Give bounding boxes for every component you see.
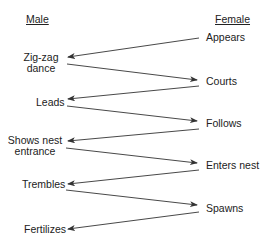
female-action-spawns: Spawns [206,203,243,214]
female-header: Female [215,14,250,25]
arrow-follows-to-shows-nest [68,129,199,141]
male-action-label-line2: entrance [6,146,64,157]
male-action-fertilizes: Fertilizes [24,224,66,235]
male-action-shows-nest: Shows nest entrance [6,135,64,157]
arrow-enters-nest-to-trembles [68,170,199,184]
male-header: Male [26,14,49,25]
female-action-courts: Courts [206,76,237,87]
female-action-appears: Appears [206,32,245,43]
courtship-diagram: Male Female Zig-zag dance Leads Shows ne… [0,0,268,245]
arrow-zigzag-to-courts [67,64,197,80]
male-action-zigzag: Zig-zag dance [17,52,65,74]
arrow-shows-nest-to-enters-nest [66,148,197,163]
male-action-leads: Leads [36,97,65,108]
arrow-appears-to-zigzag [68,38,199,57]
arrow-trembles-to-spawns [66,190,197,205]
arrow-courts-to-leads [68,86,199,99]
male-action-trembles: Trembles [22,179,65,190]
male-action-label-line2: dance [17,63,65,74]
arrow-spawns-to-fertilizes [68,212,199,229]
female-action-follows: Follows [206,118,242,129]
female-action-enters-nest: Enters nest [206,160,259,171]
arrow-leads-to-follows [67,106,197,121]
